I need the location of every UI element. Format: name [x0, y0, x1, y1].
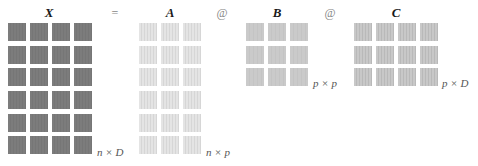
matrix-a-block [183, 68, 201, 86]
matrix-c-block [420, 68, 438, 86]
matrix-b-block [268, 23, 286, 41]
matrix-c-block [376, 46, 394, 64]
matrix-x-block [30, 68, 48, 86]
matrix-a-dims: n × p [206, 146, 230, 158]
matrix-b-title: B [273, 6, 282, 20]
matrix-b-block [290, 23, 308, 41]
matrix-x-block [74, 136, 92, 154]
matrix-a-block [183, 23, 201, 41]
matrix-a-block [139, 91, 157, 109]
matrix-c-block [398, 68, 416, 86]
matrix-c-block [398, 23, 416, 41]
matrix-a-block [161, 46, 179, 64]
matrix-a-block [161, 23, 179, 41]
matrix-a-block [139, 136, 157, 154]
matrix-x-block [52, 114, 70, 132]
matrix-x-block [74, 114, 92, 132]
matrix-x-block [52, 136, 70, 154]
matrix-b-block [246, 68, 264, 86]
matmul-operator-1: @ [216, 6, 227, 20]
matrix-c-block [420, 46, 438, 64]
matrix-x-block [8, 46, 26, 64]
matrix-c-block [354, 23, 372, 41]
matrix-x-block [8, 91, 26, 109]
matrix-x-block [8, 68, 26, 86]
matrix-a-block [161, 136, 179, 154]
matrix-a-grid [139, 23, 201, 154]
matrix-a-block [161, 91, 179, 109]
matrix-x-block [30, 46, 48, 64]
matrix-a-block [183, 114, 201, 132]
matrix-x-block [8, 136, 26, 154]
matrix-b-block [268, 68, 286, 86]
matrix-x-block [30, 114, 48, 132]
matrix-c-block [376, 23, 394, 41]
matrix-x-title: X [45, 6, 54, 20]
matrix-c-block [354, 46, 372, 64]
matrix-c-dims: p × D [442, 77, 468, 89]
matrix-c-block [420, 23, 438, 41]
matrix-b-block [290, 46, 308, 64]
matrix-x-block [52, 68, 70, 86]
matrix-x-block [30, 23, 48, 41]
matrix-b-block [246, 46, 264, 64]
matrix-x-dims: n × D [97, 146, 123, 158]
matmul-operator-2: @ [324, 6, 335, 20]
matrix-a-block [139, 68, 157, 86]
matrix-b-block [246, 23, 264, 41]
matrix-a-block [161, 68, 179, 86]
matrix-x-block [52, 46, 70, 64]
matrix-c-block [376, 68, 394, 86]
matrix-a-block [139, 114, 157, 132]
matrix-x-block [74, 91, 92, 109]
matrix-a-block [139, 46, 157, 64]
equals-sign: = [112, 6, 119, 20]
matrix-x-block [52, 91, 70, 109]
matrix-b-grid [246, 23, 308, 86]
matrix-x-block [30, 136, 48, 154]
matrix-c-grid [354, 23, 438, 86]
matrix-x-block [8, 114, 26, 132]
matrix-x-block [30, 91, 48, 109]
matrix-c-block [398, 46, 416, 64]
matrix-a-block [183, 136, 201, 154]
matrix-c-block [354, 68, 372, 86]
matrix-x-block [52, 23, 70, 41]
matrix-b-dims: p × p [313, 77, 337, 89]
matrix-x-grid [8, 23, 92, 154]
matrix-x-block [8, 23, 26, 41]
matrix-x-block [74, 68, 92, 86]
matrix-a-title: A [166, 6, 175, 20]
matrix-a-block [183, 91, 201, 109]
matrix-x-block [74, 46, 92, 64]
matrix-a-block [161, 114, 179, 132]
matrix-b-block [290, 68, 308, 86]
matrix-b-block [268, 46, 286, 64]
matrix-a-block [139, 23, 157, 41]
matrix-c-title: C [392, 6, 401, 20]
matrix-x-block [74, 23, 92, 41]
matrix-a-block [183, 46, 201, 64]
